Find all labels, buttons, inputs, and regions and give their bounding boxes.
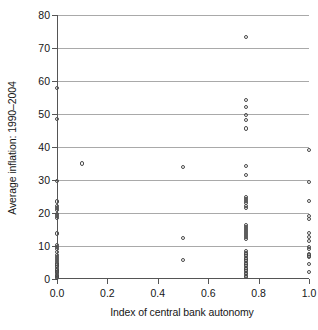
y-axis-tick-label: 0 (44, 273, 50, 285)
data-point (307, 255, 311, 259)
data-point (244, 164, 248, 168)
data-point (244, 98, 248, 102)
data-point (244, 173, 248, 177)
data-point (244, 126, 248, 130)
data-point (307, 180, 311, 184)
data-point (181, 258, 185, 262)
x-axis-tick-label: 0.2 (100, 287, 115, 299)
x-axis-tick-label: 0.8 (251, 287, 266, 299)
gridline (57, 81, 309, 82)
y-axis-line (57, 15, 58, 279)
data-point (307, 217, 311, 221)
gridline (57, 180, 309, 181)
x-axis-tick-label: 0.4 (150, 287, 165, 299)
y-axis-tick-label: 30 (38, 174, 50, 186)
x-axis-tick-mark (158, 279, 159, 284)
gridline (57, 48, 309, 49)
x-axis-line (57, 278, 309, 279)
gridline (57, 147, 309, 148)
gridline (57, 213, 309, 214)
x-axis-title: Index of central bank autonomy (57, 306, 307, 318)
data-point (307, 148, 311, 152)
data-point (244, 118, 248, 122)
scatter-chart-figure: Average inflation: 1990–2004 01020304050… (0, 0, 318, 330)
data-point (244, 105, 248, 109)
data-point (307, 199, 311, 203)
data-point (307, 239, 311, 243)
y-axis-tick-label: 60 (38, 75, 50, 87)
x-axis-tick-mark (208, 279, 209, 284)
y-axis-tick-label: 40 (38, 141, 50, 153)
x-axis-tick-label: 0.0 (50, 287, 65, 299)
data-point (307, 262, 311, 266)
data-point (244, 206, 248, 210)
x-axis-tick-mark (309, 279, 310, 284)
data-point (244, 113, 248, 117)
y-axis-tick-label: 20 (38, 207, 50, 219)
data-point (80, 161, 84, 165)
data-point (307, 270, 311, 274)
x-axis-tick-mark (259, 279, 260, 284)
y-axis-tick-label: 80 (38, 9, 50, 21)
y-axis-tick-label: 50 (38, 108, 50, 120)
data-point (181, 165, 185, 169)
data-point (181, 236, 185, 240)
x-axis-tick-mark (107, 279, 108, 284)
data-point (244, 237, 248, 241)
data-point (307, 247, 311, 251)
x-axis-tick-label: 0.6 (201, 287, 216, 299)
y-axis-tick-label: 10 (38, 240, 50, 252)
gridline (57, 246, 309, 247)
y-axis-title: Average inflation: 1990–2004 (3, 8, 21, 288)
gridline (57, 15, 309, 16)
y-axis-tick-label: 70 (38, 42, 50, 54)
gridline (57, 114, 309, 115)
x-axis-tick-label: 1.0 (302, 287, 317, 299)
data-point (244, 35, 248, 39)
plot-area: 01020304050607080 0.00.20.40.60.81.0 (57, 15, 309, 279)
